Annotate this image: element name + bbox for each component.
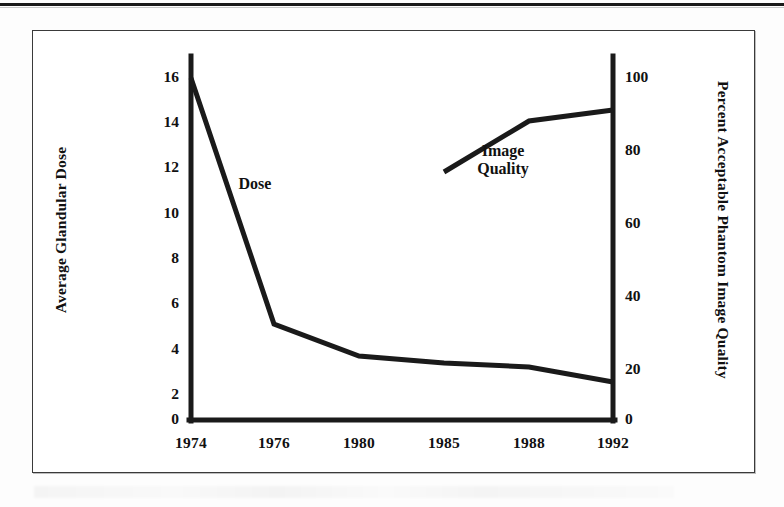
x-tick-1980: 1980 xyxy=(324,434,394,452)
left-tick-6: 6 xyxy=(145,294,179,312)
x-tick-1988: 1988 xyxy=(494,434,564,452)
right-tick-40: 40 xyxy=(625,287,659,305)
page-top-rule xyxy=(0,3,784,6)
left-tick-0: 0 xyxy=(145,410,179,428)
left-axis-title: Average Glandular Dose xyxy=(52,110,70,350)
right-tick-60: 60 xyxy=(625,214,659,232)
series-line-dose xyxy=(191,78,613,382)
figure-frame: Average Glandular Dose Percent Acceptabl… xyxy=(32,30,755,473)
x-tick-1992: 1992 xyxy=(578,434,648,452)
scan-artifact xyxy=(34,486,674,498)
right-tick-80: 80 xyxy=(625,141,659,159)
right-tick-100: 100 xyxy=(625,68,659,86)
left-tick-16: 16 xyxy=(145,68,179,86)
left-tick-10: 10 xyxy=(145,204,179,222)
left-tick-14: 14 xyxy=(145,113,179,131)
page-canvas: Average Glandular Dose Percent Acceptabl… xyxy=(0,0,784,507)
left-tick-2: 2 xyxy=(145,385,179,403)
x-tick-1985: 1985 xyxy=(409,434,479,452)
x-tick-1974: 1974 xyxy=(156,434,226,452)
left-tick-8: 8 xyxy=(145,249,179,267)
right-axis-title: Percent Acceptable Phantom Image Quality xyxy=(714,80,732,380)
line-chart: Average Glandular Dose Percent Acceptabl… xyxy=(33,31,756,474)
right-tick-0: 0 xyxy=(625,410,659,428)
chart-svg xyxy=(33,31,756,474)
series-annotation-dose: Dose xyxy=(220,175,290,193)
left-tick-4: 4 xyxy=(145,340,179,358)
x-tick-1976: 1976 xyxy=(239,434,309,452)
left-tick-12: 12 xyxy=(145,158,179,176)
page-top-rule-thin xyxy=(0,7,784,8)
right-tick-20: 20 xyxy=(625,360,659,378)
series-annotation-image-quality: Image Quality xyxy=(458,142,548,178)
